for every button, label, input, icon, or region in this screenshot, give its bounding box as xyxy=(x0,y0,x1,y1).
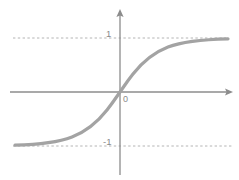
origin-label: 0 xyxy=(123,95,128,104)
y-tick-label-negative-one: -1 xyxy=(103,137,111,147)
plot-canvas xyxy=(0,0,239,180)
sigmoid-figure: 1 -1 0 xyxy=(0,0,239,180)
y-tick-label-positive-one: 1 xyxy=(106,29,111,39)
